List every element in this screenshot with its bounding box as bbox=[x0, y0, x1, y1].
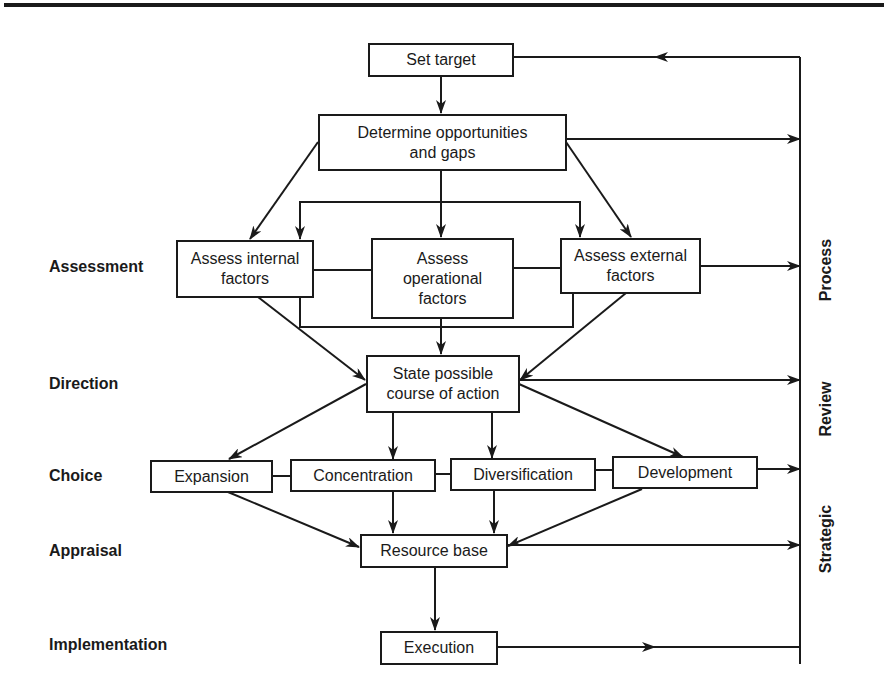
node-assess-operational: Assess operational factors bbox=[371, 238, 514, 319]
node-determine-line1: Determine opportunities bbox=[358, 123, 528, 143]
node-execution-label: Execution bbox=[404, 638, 474, 658]
node-internal-line1: Assess internal bbox=[191, 249, 300, 269]
node-concentration: Concentration bbox=[290, 459, 436, 492]
node-concentration-label: Concentration bbox=[313, 466, 413, 486]
node-development-label: Development bbox=[638, 463, 732, 483]
node-set-target-label: Set target bbox=[406, 50, 475, 70]
node-operational-line1: Assess bbox=[417, 249, 469, 269]
stage-label-implementation: Implementation bbox=[49, 636, 167, 654]
stage-label-appraisal: Appraisal bbox=[49, 542, 122, 560]
node-assess-external: Assess external factors bbox=[560, 238, 701, 294]
stage-label-choice: Choice bbox=[49, 467, 102, 485]
node-diversification: Diversification bbox=[450, 458, 596, 491]
node-state-course-of-action: State possible course of action bbox=[366, 355, 520, 413]
node-set-target: Set target bbox=[368, 43, 514, 77]
stage-label-direction: Direction bbox=[49, 375, 118, 393]
node-internal-line2: factors bbox=[221, 269, 269, 289]
node-resource-base: Resource base bbox=[360, 534, 508, 568]
node-state-line2: course of action bbox=[387, 384, 500, 404]
node-state-line1: State possible bbox=[393, 364, 494, 384]
node-resource-base-label: Resource base bbox=[380, 541, 488, 561]
side-label-strategic: Strategic bbox=[817, 489, 835, 589]
stage-label-assessment: Assessment bbox=[49, 258, 143, 276]
node-external-line1: Assess external bbox=[574, 246, 687, 266]
node-diversification-label: Diversification bbox=[473, 465, 573, 485]
side-label-review: Review bbox=[817, 359, 835, 459]
node-operational-line2: operational bbox=[403, 269, 482, 289]
node-operational-line3: factors bbox=[418, 289, 466, 309]
node-execution: Execution bbox=[380, 631, 498, 665]
node-external-line2: factors bbox=[606, 266, 654, 286]
node-expansion: Expansion bbox=[150, 460, 273, 493]
node-determine-line2: and gaps bbox=[410, 143, 476, 163]
node-expansion-label: Expansion bbox=[174, 467, 249, 487]
side-label-process: Process bbox=[817, 220, 835, 320]
flowchart-connectors bbox=[0, 0, 884, 700]
node-assess-internal: Assess internal factors bbox=[176, 240, 314, 298]
node-determine-opportunities: Determine opportunities and gaps bbox=[318, 114, 567, 171]
node-development: Development bbox=[612, 456, 758, 489]
